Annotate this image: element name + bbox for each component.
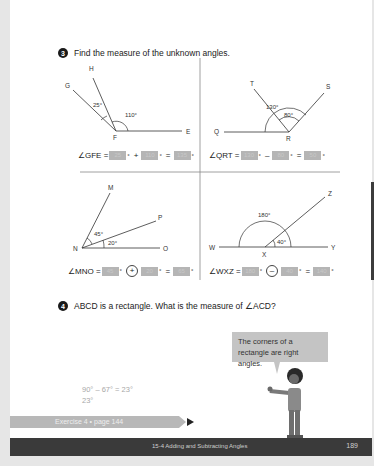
point-label-f: F <box>113 134 117 141</box>
answer-box[interactable]: 80 <box>272 151 289 160</box>
operator-circle[interactable]: + <box>126 265 138 277</box>
page-footer: 15-4 Adding and Subtracting Angles 189 <box>10 438 372 456</box>
point-label-p: P <box>158 214 162 221</box>
angle-label-180: 180° <box>258 212 271 218</box>
angle-diagrams: H G F E 25° 110° T S Q R 130° 80° M P N … <box>0 0 374 300</box>
answer-box[interactable]: 45 <box>102 267 119 276</box>
answer-box[interactable]: 110 <box>141 151 158 160</box>
operator-circle[interactable]: – <box>266 265 278 277</box>
page-number: 189 <box>346 442 358 449</box>
worked-answer-line-2: 23° <box>82 396 93 405</box>
point-label-e: E <box>186 128 191 135</box>
point-label-w: W <box>209 244 216 251</box>
boy-character-illustration <box>262 362 322 442</box>
point-label-y: Y <box>331 244 336 251</box>
angle-label-25: 25° <box>93 102 103 108</box>
answer-box[interactable]: 180 <box>242 267 259 276</box>
equation-gfe: ∠GFE = 25° + 110° = 135° <box>78 151 196 160</box>
answer-box[interactable]: 50 <box>304 151 321 160</box>
question-number-badge: 4 <box>58 301 68 311</box>
equation-wxz: ∠WXZ = 180° – 40° = 140° <box>209 265 336 277</box>
answer-box[interactable]: 130 <box>241 151 258 160</box>
point-label-o: O <box>163 245 168 252</box>
answer-box[interactable]: 20 <box>141 267 158 276</box>
angle-label-40: 40° <box>277 239 287 245</box>
point-label-g: G <box>65 82 70 89</box>
answer-box[interactable]: 65 <box>173 267 190 276</box>
point-label-r: R <box>286 135 291 142</box>
diagram-mno: M P N O 45° 20° <box>73 184 168 252</box>
chapter-title: 15-4 Adding and Subtracting Angles <box>152 443 247 449</box>
answer-box[interactable]: 40 <box>281 267 298 276</box>
question-4-heading: 4 ABCD is a rectangle. What is the measu… <box>58 301 276 311</box>
equation-mno: ∠MNO = 45° + 20° = 65° <box>68 265 195 277</box>
answer-box[interactable]: 25 <box>109 151 126 160</box>
angle-label-130: 130° <box>266 104 279 110</box>
exercise-link[interactable]: Exercise 4 • page 144 <box>10 416 186 428</box>
angle-label-45: 45° <box>94 231 104 237</box>
point-label-q: Q <box>214 128 219 136</box>
point-label-h: H <box>89 65 94 72</box>
angle-label-20: 20° <box>108 240 118 246</box>
angle-label-80: 80° <box>284 112 294 118</box>
diagram-gfe: H G F E 25° 110° <box>65 65 191 141</box>
answer-box[interactable]: 135 <box>174 151 191 160</box>
question-4-prompt: ABCD is a rectangle. What is the measure… <box>74 301 276 311</box>
point-label-t: T <box>250 80 254 87</box>
point-label-n: N <box>73 245 78 252</box>
point-label-z: Z <box>328 190 332 197</box>
equation-qrt: ∠QRT = 130° – 80° = 50° <box>209 151 327 160</box>
point-label-x: X <box>262 251 267 258</box>
diagram-wxz: Z W X Y 180° 40° <box>209 190 336 258</box>
point-label-m: M <box>108 184 113 191</box>
speech-bubble: The corners of a rectangle are right ang… <box>232 332 328 362</box>
diagram-qrt: T S Q R 130° 80° <box>214 80 331 142</box>
point-label-s: S <box>326 83 331 90</box>
worked-answer-line-1: 90° – 67° = 23° <box>82 385 133 394</box>
angle-label-110: 110° <box>125 112 138 118</box>
answer-box[interactable]: 140 <box>313 267 330 276</box>
arrow-right-icon <box>187 418 194 426</box>
